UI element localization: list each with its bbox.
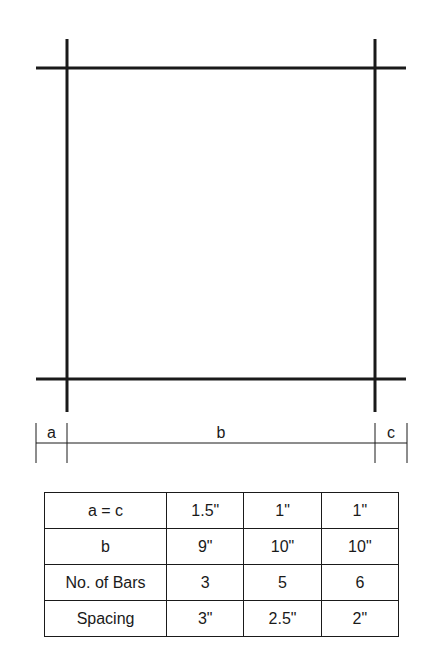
table-cell: 6 (321, 565, 398, 601)
table-row: Spacing 3" 2.5" 2" (45, 601, 399, 637)
row-label: a = c (45, 493, 167, 529)
table-cell: 10" (244, 529, 321, 565)
table-cell: 2" (321, 601, 398, 637)
dimension-label-a: a (36, 424, 67, 442)
row-label: b (45, 529, 167, 565)
table-row: a = c 1.5" 1" 1" (45, 493, 399, 529)
table-cell: 1" (244, 493, 321, 529)
dimension-label-b: b (67, 424, 375, 442)
table-row: b 9" 10" 10" (45, 529, 399, 565)
table-cell: 3" (167, 601, 244, 637)
table-cell: 10" (321, 529, 398, 565)
table-cell: 1" (321, 493, 398, 529)
row-label: No. of Bars (45, 565, 167, 601)
table-cell: 2.5" (244, 601, 321, 637)
bar-layout-diagram (0, 0, 429, 480)
table-cell: 3 (167, 565, 244, 601)
row-label: Spacing (45, 601, 167, 637)
table-cell: 9" (167, 529, 244, 565)
table-cell: 5 (244, 565, 321, 601)
table-row: No. of Bars 3 5 6 (45, 565, 399, 601)
dimension-label-c: c (375, 424, 407, 442)
bar-spec-table: a = c 1.5" 1" 1" b 9" 10" 10" No. of Bar… (44, 492, 399, 637)
table-cell: 1.5" (167, 493, 244, 529)
